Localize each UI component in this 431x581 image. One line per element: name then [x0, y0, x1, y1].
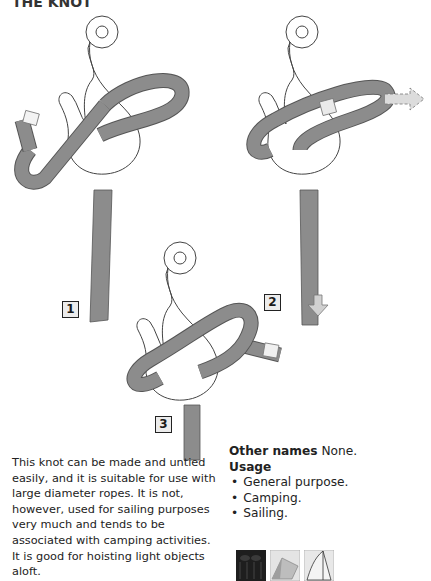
- other-names-value: None.: [321, 444, 357, 458]
- usage-label: Usage: [229, 460, 271, 474]
- step-number-1: 1: [62, 301, 79, 318]
- step-number-2: 2: [264, 294, 281, 311]
- tent-icon: [270, 550, 300, 581]
- figure-step-2: [254, 16, 424, 325]
- figure-step-1: [22, 16, 183, 322]
- usage-list: General purpose. Camping. Sailing.: [229, 475, 429, 522]
- sail-icon: [304, 550, 334, 581]
- other-names-label: Other names: [229, 444, 318, 458]
- step-number-3: 3: [155, 416, 172, 433]
- usage-item: General purpose.: [229, 475, 429, 491]
- usage-item: Sailing.: [229, 506, 429, 522]
- usage-icons: [236, 550, 334, 581]
- rope-coil-icon: [236, 550, 266, 581]
- knot-info: Other names None. Usage General purpose.…: [229, 444, 429, 522]
- knot-description: This knot can be made and untied easily,…: [12, 455, 217, 580]
- other-names-line: Other names None.: [229, 444, 429, 460]
- usage-item: Camping.: [229, 491, 429, 507]
